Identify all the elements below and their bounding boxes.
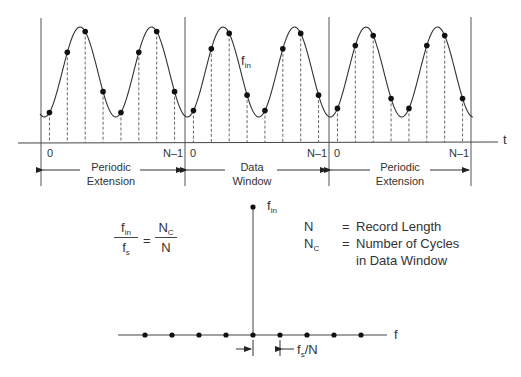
frequency-bin-dot — [358, 332, 363, 337]
frequency-bin-dot — [223, 332, 228, 337]
frequency-bin-dot — [169, 332, 174, 337]
sample-dot — [100, 89, 106, 95]
sample-dot — [244, 92, 250, 98]
time-axis — [18, 142, 498, 143]
frequency-bin-dot — [277, 332, 282, 337]
sample-dot — [280, 46, 286, 52]
sample-dot — [406, 106, 412, 112]
legend-row-cycles-cont: in Data Window — [304, 252, 459, 269]
frequency-bin-dot — [142, 332, 147, 337]
bin-spacing-marker — [236, 340, 294, 356]
sample-dot — [388, 96, 394, 102]
sample-dot — [335, 106, 341, 112]
sample-points — [47, 29, 466, 143]
definitions-legend: N = Record Length NC = Number of Cycles … — [304, 218, 459, 269]
sample-dot — [47, 110, 53, 116]
time-axis-label: t — [503, 133, 507, 146]
sample-dot — [154, 29, 160, 35]
fin-spike-tip — [250, 204, 255, 209]
window2-label-line1: Data — [240, 162, 263, 173]
coherent-sampling-diagram — [0, 0, 521, 377]
sample-dot — [136, 50, 142, 56]
sample-dot — [262, 108, 268, 114]
sample-dot — [191, 108, 197, 114]
window1-end-index: N–1 — [163, 148, 183, 159]
window2-start-index: 0 — [190, 148, 196, 159]
window2-label-line2: Window — [232, 176, 271, 187]
sample-dot — [209, 46, 215, 52]
window3-end-index: N–1 — [449, 148, 469, 159]
spike-label: fin — [267, 199, 277, 212]
window3-start-index: 0 — [334, 148, 340, 159]
window3-label-line1: Periodic — [380, 162, 420, 173]
equation-lhs-fraction: fin fs — [114, 220, 138, 255]
legend-row-cycles: NC = Number of Cycles — [304, 235, 459, 252]
sample-dot — [82, 29, 88, 35]
legend-row-record-length: N = Record Length — [304, 218, 459, 235]
window1-start-index: 0 — [47, 148, 53, 159]
sample-dot — [65, 50, 71, 56]
sample-dot — [424, 43, 430, 49]
frequency-bin-dot — [304, 332, 309, 337]
signal-label: fin — [241, 54, 251, 67]
sample-dot — [460, 96, 466, 102]
window1-label-line2: Extension — [87, 176, 135, 187]
sample-dot — [442, 33, 448, 39]
sample-dot — [298, 31, 304, 37]
sample-dot — [370, 33, 376, 39]
equation-rhs-fraction: NC N — [155, 220, 177, 255]
frequency-bin-dot — [196, 332, 201, 337]
window3-label-line2: Extension — [376, 176, 424, 187]
frequency-axis-label: f — [394, 328, 398, 341]
frequency-bin-dot — [331, 332, 336, 337]
sample-dot — [172, 89, 178, 95]
window1-label-line1: Periodic — [91, 162, 131, 173]
sample-dot — [118, 110, 124, 116]
frequency-bin-dot — [250, 332, 255, 337]
sample-dot — [226, 31, 232, 37]
sample-dot — [316, 92, 322, 98]
sine-waveform — [40, 27, 473, 117]
equation-equals: = — [143, 234, 151, 247]
window2-end-index: N–1 — [307, 148, 327, 159]
sample-dot — [353, 43, 359, 49]
bin-spacing-label: fs/N — [297, 343, 318, 356]
